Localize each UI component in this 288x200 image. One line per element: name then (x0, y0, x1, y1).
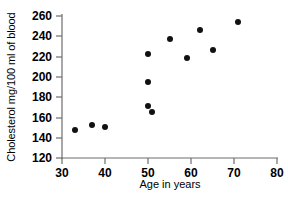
y-axis-title: Cholesterol mg/100 ml of blood (4, 2, 18, 172)
data-point (184, 55, 190, 61)
y-axis (56, 14, 62, 159)
y-tick-label: 160 (24, 112, 52, 124)
scatter-chart: Cholesterol mg/100 ml of blood 120 140 1… (0, 0, 288, 200)
data-point (145, 51, 151, 57)
y-tick-label: 120 (24, 152, 52, 164)
y-tick-label: 260 (24, 10, 52, 22)
data-point (145, 79, 151, 85)
y-tick-label: 200 (24, 71, 52, 83)
y-tick-label: 220 (24, 51, 52, 63)
data-point (102, 124, 108, 130)
y-axis-ticks (56, 16, 62, 158)
data-point (167, 36, 173, 42)
y-tick-label: 140 (24, 132, 52, 144)
x-axis-title: Age in years (62, 178, 278, 191)
data-point (72, 127, 78, 133)
data-point (197, 27, 203, 33)
y-tick-label: 180 (24, 91, 52, 103)
data-point (89, 122, 95, 128)
x-axis-ticks (62, 158, 277, 164)
x-axis (62, 158, 278, 164)
y-tick-label: 240 (24, 30, 52, 42)
